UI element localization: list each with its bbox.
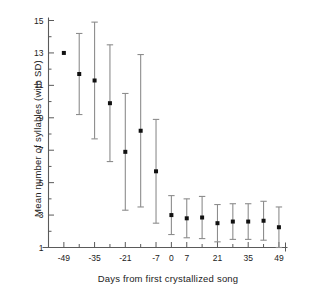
x-tick-label: 7: [184, 253, 189, 263]
data-point-marker: [123, 150, 127, 154]
data-point-marker: [169, 213, 173, 217]
data-point-marker: [93, 78, 97, 82]
data-point-marker: [62, 51, 66, 55]
data-point-marker: [215, 221, 219, 225]
chart-figure: Mean number of syllables (with SD) Days …: [0, 0, 310, 296]
plot-area: 13579111315 -49-35-21-707213549: [0, 0, 310, 296]
data-point-marker: [200, 216, 204, 220]
data-point-marker: [231, 220, 235, 224]
data-point-marker: [139, 129, 143, 133]
x-tick-label: -7: [152, 253, 160, 263]
y-tick-label: 15: [34, 16, 44, 26]
x-tick-label: -21: [119, 253, 132, 263]
x-tick-label: -35: [88, 253, 101, 263]
x-tick-label: 49: [274, 253, 284, 263]
data-point-marker: [277, 225, 281, 229]
y-tick-label: 1: [39, 243, 44, 253]
y-axis-title: Mean number of syllables (with SD): [32, 44, 43, 234]
data-point-marker: [108, 101, 112, 105]
x-axis-title: Days from first crystallized song: [48, 273, 288, 284]
data-point-marker: [77, 72, 81, 76]
data-point-marker: [185, 216, 189, 220]
x-axis-ticks: -49-35-21-707213549: [58, 242, 284, 263]
x-tick-label: -49: [58, 253, 71, 263]
data-point-marker: [154, 169, 158, 173]
data-points: [62, 22, 282, 247]
x-tick-label: 35: [243, 253, 253, 263]
data-point-marker: [262, 219, 266, 223]
x-tick-label: 0: [169, 253, 174, 263]
x-tick-label: 21: [213, 253, 223, 263]
data-point-marker: [246, 220, 250, 224]
